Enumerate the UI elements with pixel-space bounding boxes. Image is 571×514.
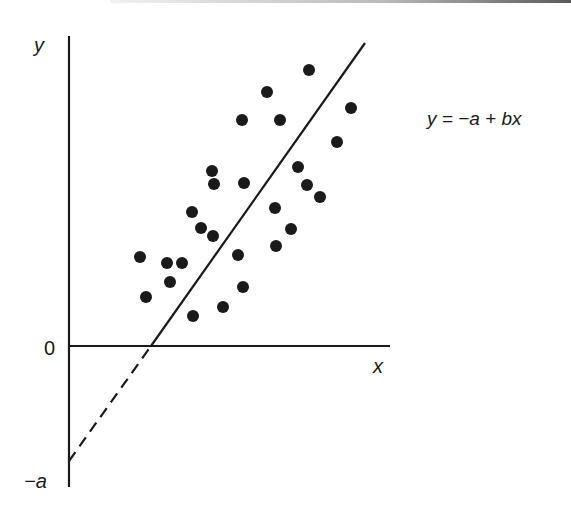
y-axis-label: y	[32, 34, 45, 56]
data-point	[238, 177, 250, 189]
data-point	[331, 136, 343, 148]
data-point	[261, 86, 273, 98]
data-point	[292, 161, 304, 173]
regression-line	[151, 43, 365, 346]
data-point	[161, 257, 173, 269]
data-point	[207, 230, 219, 242]
data-point	[208, 178, 220, 190]
regression-line-extrapolated	[69, 346, 151, 461]
data-point	[314, 191, 326, 203]
data-point	[186, 206, 198, 218]
data-point	[270, 240, 282, 252]
data-point	[176, 257, 188, 269]
data-point	[217, 301, 229, 313]
data-point	[140, 291, 152, 303]
data-point	[274, 114, 286, 126]
data-point	[301, 179, 313, 191]
data-point	[195, 222, 207, 234]
data-point	[285, 223, 297, 235]
y-tick-neg-a: −a	[24, 470, 47, 492]
data-point	[345, 102, 357, 114]
data-point	[236, 114, 248, 126]
data-point	[134, 251, 146, 263]
scatter-chart: y x 0 −a y = −a + bx	[0, 0, 571, 514]
data-point	[206, 165, 218, 177]
data-point	[303, 64, 315, 76]
data-point	[164, 276, 176, 288]
equation-annotation: y = −a + bx	[425, 108, 523, 129]
data-point	[187, 310, 199, 322]
y-tick-zero: 0	[44, 337, 55, 359]
data-point	[237, 281, 249, 293]
x-axis-label: x	[372, 355, 384, 377]
data-point	[269, 202, 281, 214]
data-point	[232, 249, 244, 261]
